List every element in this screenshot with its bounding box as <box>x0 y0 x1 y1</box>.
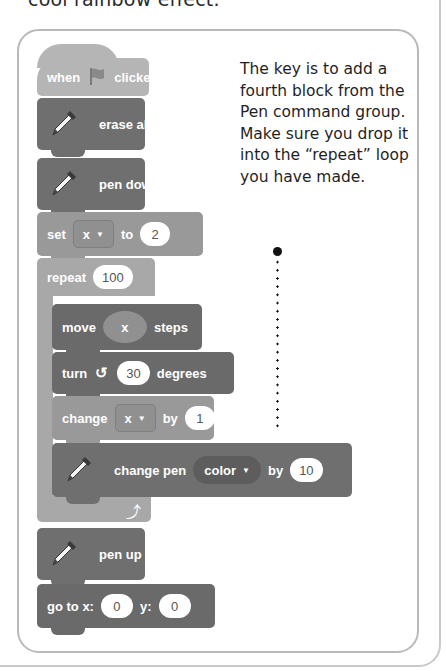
repeat-arm <box>37 288 53 498</box>
loop-arrow-icon: ⤴ <box>126 500 141 521</box>
by-label: by <box>163 411 178 426</box>
turn-label: turn <box>62 366 87 381</box>
erase-all-block[interactable]: erase all <box>37 98 145 150</box>
pen-icon <box>49 170 77 198</box>
leader-dotted-line <box>276 258 279 432</box>
turn-block[interactable]: turn ↺ 30 degrees <box>52 352 234 394</box>
pen-param-dropdown[interactable]: color ▼ <box>193 456 261 484</box>
variable-reporter[interactable]: x <box>103 311 147 343</box>
go-to-x-label: go to x: <box>47 599 94 614</box>
set-variable-block[interactable]: set x ▼ to 2 <box>37 212 203 256</box>
set-label: set <box>47 227 66 242</box>
when-flag-clicked-block[interactable]: when clicked <box>37 58 149 96</box>
set-value-input[interactable]: 2 <box>140 222 170 246</box>
turn-degrees-input[interactable]: 30 <box>117 361 149 385</box>
variable-dropdown[interactable]: x ▼ <box>73 220 114 248</box>
steps-label: steps <box>154 320 188 335</box>
erase-all-label: erase all <box>99 117 151 132</box>
repeat-block[interactable]: repeat 100 <box>37 258 155 296</box>
change-label: change <box>62 411 108 426</box>
variable-name: x <box>83 227 90 242</box>
leader-dot <box>273 247 282 256</box>
pen-up-block[interactable]: pen up <box>37 528 145 580</box>
change-variable-block[interactable]: change x ▼ by 1 <box>52 396 214 440</box>
by-label: by <box>268 463 283 478</box>
repeat-label: repeat <box>47 270 86 285</box>
go-to-xy-block[interactable]: go to x: 0 y: 0 <box>37 584 215 628</box>
clicked-label: clicked <box>114 70 158 85</box>
change-value-input[interactable]: 1 <box>185 406 215 430</box>
repeat-count-input[interactable]: 100 <box>93 265 133 289</box>
move-steps-block[interactable]: move x steps <box>52 304 202 350</box>
y-coordinate-input[interactable]: 0 <box>159 594 191 618</box>
pen-up-label: pen up <box>99 547 142 562</box>
chevron-down-icon: ▼ <box>138 414 146 423</box>
to-label: to <box>121 227 133 242</box>
variable-name: x <box>125 411 132 426</box>
pen-down-label: pen down <box>99 177 160 192</box>
pen-change-value-input[interactable]: 10 <box>290 458 322 482</box>
degrees-label: degrees <box>157 366 207 381</box>
chevron-down-icon: ▼ <box>96 230 104 239</box>
y-label: y: <box>140 599 152 614</box>
pen-icon <box>64 456 92 484</box>
instruction-note: The key is to add a fourth block from th… <box>240 59 420 188</box>
pen-param-name: color <box>204 463 236 478</box>
pen-down-block[interactable]: pen down <box>37 158 145 210</box>
when-label: when <box>47 70 80 85</box>
chevron-down-icon: ▼ <box>242 466 250 475</box>
change-pen-label: change pen <box>114 463 186 478</box>
change-pen-color-block[interactable]: change pen color ▼ by 10 <box>52 443 352 497</box>
variable-dropdown[interactable]: x ▼ <box>115 404 156 432</box>
x-coordinate-input[interactable]: 0 <box>101 594 133 618</box>
pen-icon <box>49 110 77 138</box>
pen-icon <box>49 540 77 568</box>
green-flag-icon <box>87 66 107 89</box>
rotate-left-icon: ↺ <box>95 364 108 382</box>
move-label: move <box>62 320 96 335</box>
